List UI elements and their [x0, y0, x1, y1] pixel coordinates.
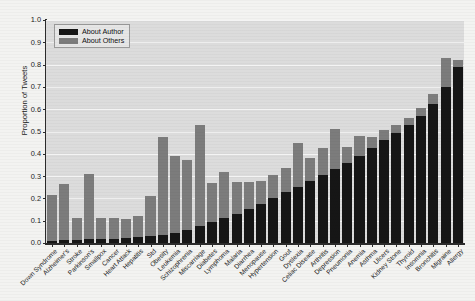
bar-segment-about-others [59, 184, 69, 240]
bar-stack [379, 130, 389, 243]
bar-segment-about-others [145, 196, 155, 236]
bar-stack [268, 175, 278, 243]
bar-segment-about-author [268, 198, 278, 243]
bar-segment-about-author [207, 222, 217, 243]
x-axis-line [45, 243, 465, 245]
bar-stack [404, 118, 414, 243]
bar-segment-about-author [195, 226, 205, 243]
bar-segment-about-others [244, 182, 254, 209]
bar-stack [244, 182, 254, 243]
bar-segment-about-author [145, 236, 155, 243]
bar-stack [121, 219, 131, 243]
bar-segment-about-others [96, 218, 106, 239]
bar-stack [318, 148, 328, 243]
y-axis-tick-label: 0.0 [3, 239, 41, 246]
bar-segment-about-author [318, 175, 328, 243]
bar-stack [158, 137, 168, 243]
bar-stack [305, 158, 315, 243]
legend-swatch-about-author [59, 29, 78, 35]
bar-segment-about-others [391, 125, 401, 132]
bar-stack [281, 168, 291, 243]
chart-figure: Proportion of Tweets 0.00.10.20.30.40.50… [0, 0, 475, 301]
bar-stack [207, 183, 217, 243]
chart-legend: About Author About Others [54, 24, 130, 48]
legend-item-about-author: About Author [59, 28, 124, 35]
bar-segment-about-others [441, 58, 451, 87]
bar-segment-about-author [244, 209, 254, 243]
legend-item-about-others: About Others [59, 37, 124, 44]
legend-label-about-others: About Others [82, 37, 124, 44]
bar-segment-about-author [293, 187, 303, 243]
bar-stack [195, 125, 205, 243]
bar-segment-about-others [379, 130, 389, 140]
bar-segment-about-author [367, 148, 377, 243]
bar-stack [170, 156, 180, 243]
bar-segment-about-author [232, 214, 242, 243]
bar-stack [72, 218, 82, 243]
bar-segment-about-author [379, 140, 389, 243]
bar-segment-about-author [133, 237, 143, 243]
y-axis-tick-label: 0.4 [3, 150, 41, 157]
bar-segment-about-others [170, 156, 180, 233]
bar-segment-about-author [84, 239, 94, 243]
bar-segment-about-author [96, 239, 106, 243]
bar-stack [219, 172, 229, 243]
bar-segment-about-others [121, 219, 131, 238]
bar-segment-about-others [330, 129, 340, 169]
bar-segment-about-author [256, 204, 266, 243]
plot-area: About Author About Others [46, 20, 464, 243]
bar-segment-about-author [219, 218, 229, 243]
bar-segment-about-author [109, 239, 119, 243]
bar-segment-about-author [441, 87, 451, 243]
bar-segment-about-others [47, 195, 57, 241]
bar-segment-about-others [428, 94, 438, 104]
y-axis-tick-label: 0.3 [3, 173, 41, 180]
bar-segment-about-others [305, 158, 315, 181]
bar-segment-about-author [404, 125, 414, 243]
bar-segment-about-others [133, 216, 143, 238]
y-axis-tick-label: 0.8 [3, 61, 41, 68]
bar-stack [47, 195, 57, 243]
bar-stack [416, 108, 426, 243]
bar-segment-about-author [342, 163, 352, 243]
bar-stack [354, 136, 364, 243]
bar-segment-about-others [158, 137, 168, 235]
bar-segment-about-author [428, 104, 438, 243]
bar-stack [428, 94, 438, 243]
bar-stack [293, 143, 303, 243]
bar-segment-about-author [330, 169, 340, 243]
bar-stack [133, 216, 143, 243]
bar-segment-about-others [109, 218, 119, 239]
bar-segment-about-others [367, 137, 377, 149]
bar-segment-about-others [72, 218, 82, 240]
bar-segment-about-others [342, 147, 352, 163]
bar-stack [232, 182, 242, 243]
bar-segment-about-others [404, 118, 414, 125]
bar-segment-about-others [281, 168, 291, 192]
bar-stack [109, 218, 119, 243]
bar-stack [256, 181, 266, 243]
bar-segment-about-others [195, 125, 205, 226]
bar-stack [145, 196, 155, 243]
bar-segment-about-author [305, 181, 315, 243]
bar-segment-about-author [47, 241, 57, 243]
bar-segment-about-others [182, 160, 192, 230]
bar-series-group [46, 20, 464, 243]
bar-segment-about-others [268, 175, 278, 198]
bar-segment-about-author [391, 133, 401, 243]
bar-segment-about-others [207, 183, 217, 222]
bar-segment-about-others [293, 143, 303, 187]
y-axis-tick-label: 1.0 [3, 16, 41, 23]
bar-segment-about-author [158, 235, 168, 243]
bar-segment-about-others [256, 181, 266, 204]
bar-segment-about-author [281, 192, 291, 243]
bar-segment-about-author [59, 240, 69, 243]
bar-segment-about-others [219, 172, 229, 219]
bar-segment-about-others [416, 108, 426, 116]
bar-segment-about-author [354, 156, 364, 243]
y-axis-tick-label: 0.9 [3, 39, 41, 46]
bar-segment-about-others [318, 148, 328, 175]
bar-stack [84, 174, 94, 243]
bar-segment-about-others [354, 136, 364, 156]
y-axis-tick-label: 0.5 [3, 128, 41, 135]
